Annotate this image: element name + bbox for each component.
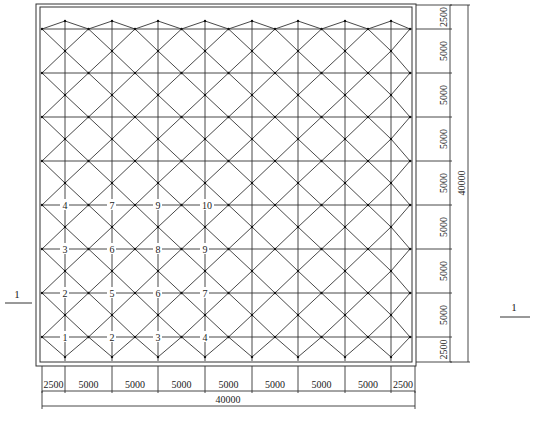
- node: [297, 356, 299, 358]
- diagonal-member: [391, 95, 410, 117]
- diagonal-member: [182, 73, 206, 95]
- node-label: 1: [63, 332, 68, 343]
- node-label: 9: [156, 200, 161, 211]
- diagonal-member: [135, 161, 158, 183]
- diagonal-member: [205, 51, 229, 73]
- node-label: 2: [63, 288, 68, 299]
- node-label: 4: [203, 332, 208, 343]
- node: [64, 94, 66, 96]
- diagonal-member: [182, 161, 206, 183]
- node: [409, 72, 411, 74]
- diagonal-member: [229, 249, 253, 271]
- diagonal-member: [298, 161, 322, 183]
- diagonal-member: [345, 29, 368, 51]
- diagonal-member: [275, 337, 298, 357]
- node: [251, 226, 253, 228]
- node: [87, 72, 89, 74]
- node: [157, 356, 159, 358]
- diagonal-member: [42, 51, 65, 73]
- diagonal-member: [158, 51, 182, 73]
- diagonal-member: [391, 73, 410, 95]
- node: [180, 292, 182, 294]
- node: [64, 356, 66, 358]
- node: [87, 204, 89, 206]
- diagonal-member: [135, 117, 158, 139]
- diagonal-member: [112, 95, 135, 117]
- diagonal-member: [135, 29, 158, 51]
- diagonal-member: [205, 139, 229, 161]
- diagonal-member: [65, 51, 89, 73]
- node: [64, 314, 66, 316]
- right-dimension-label: 5000: [438, 173, 449, 193]
- diagonal-member: [135, 139, 158, 161]
- diagonal-member: [368, 271, 391, 293]
- diagonal-member: [298, 117, 322, 139]
- diagonal-member: [345, 51, 368, 73]
- node: [251, 314, 253, 316]
- diagonal-member: [345, 117, 368, 139]
- diagonal-member: [112, 117, 135, 139]
- diagonal-member: [391, 117, 410, 139]
- diagonal-member: [275, 315, 298, 337]
- node: [180, 336, 182, 338]
- diagonal-member: [135, 21, 158, 29]
- node: [390, 138, 392, 140]
- node: [64, 270, 66, 272]
- node: [251, 20, 253, 22]
- node: [111, 138, 113, 140]
- node: [204, 182, 206, 184]
- node: [134, 160, 136, 162]
- node: [320, 292, 322, 294]
- node: [134, 116, 136, 118]
- diagonal-member: [252, 29, 275, 51]
- diagonal-member: [42, 95, 65, 117]
- diagonal-member: [229, 29, 253, 51]
- diagonal-member: [42, 161, 65, 183]
- node: [320, 72, 322, 74]
- diagonal-member: [368, 117, 391, 139]
- right-dimension-label: 2500: [438, 340, 449, 360]
- right-dimension-label: 5000: [438, 261, 449, 281]
- diagonal-member: [112, 161, 135, 183]
- diagonal-member: [65, 161, 89, 183]
- diagonal-member: [275, 161, 298, 183]
- bottom-dimension-label: 5000: [79, 379, 99, 390]
- section-mark-right-label: 1: [511, 301, 517, 313]
- diagonal-member: [89, 95, 113, 117]
- diagonal-member: [229, 337, 253, 357]
- diagonal-member: [89, 73, 113, 95]
- diagonal-member: [252, 117, 275, 139]
- diagonal-member: [229, 161, 253, 183]
- node: [367, 72, 369, 74]
- overall-height-label: 40000: [456, 171, 467, 196]
- node: [134, 292, 136, 294]
- node: [390, 50, 392, 52]
- node: [320, 116, 322, 118]
- bottom-dimension-label: 5000: [358, 379, 378, 390]
- diagonal-member: [368, 21, 391, 29]
- diagonal-member: [298, 139, 322, 161]
- diagonal-member: [298, 293, 322, 315]
- diagonal-member: [345, 139, 368, 161]
- node: [409, 160, 411, 162]
- diagonal-member: [345, 183, 368, 205]
- diagonal-member: [391, 21, 410, 29]
- diagonal-member: [322, 293, 346, 315]
- node: [41, 160, 43, 162]
- node: [111, 356, 113, 358]
- node: [390, 314, 392, 316]
- diagonal-member: [252, 271, 275, 293]
- diagonal-member: [368, 139, 391, 161]
- node: [251, 182, 253, 184]
- diagonal-member: [391, 315, 410, 337]
- diagonal-member: [229, 271, 253, 293]
- node: [227, 336, 229, 338]
- diagonal-member: [275, 117, 298, 139]
- node: [344, 20, 346, 22]
- node: [180, 248, 182, 250]
- diagonal-member: [252, 249, 275, 271]
- diagonal-member: [135, 95, 158, 117]
- bottom-dimension-label: 5000: [312, 379, 332, 390]
- diagonal-member: [345, 95, 368, 117]
- diagonal-member: [275, 293, 298, 315]
